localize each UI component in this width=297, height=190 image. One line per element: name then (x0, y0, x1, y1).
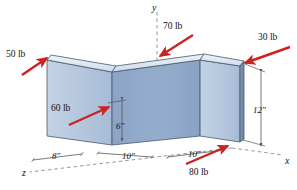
force-30lb-label: 30 lb (258, 33, 277, 43)
force-70lb-arrow (160, 35, 193, 56)
force-60lb-label: 60 lb (51, 104, 70, 114)
dim-12in-label: 12" (253, 106, 266, 115)
dim-12in-leader-bottom (243, 140, 265, 146)
dim-6in-label: 6" (116, 122, 124, 131)
bent-plate-solid (47, 54, 244, 145)
dim-10in-left-label: 10" (122, 152, 135, 161)
axis-z-label: z (22, 168, 26, 178)
dim-8in-label: 8" (52, 152, 60, 161)
force-50lb-arrow (22, 58, 47, 75)
plate-panel-right-end (240, 61, 244, 142)
force-70lb-label: 70 lb (163, 22, 182, 32)
dim-12in-leader-top (245, 64, 265, 72)
axis-x-label: x (285, 156, 289, 166)
plate-panel-middle-face (112, 60, 200, 145)
statics-diagram (0, 0, 297, 190)
axis-x-line (232, 148, 283, 155)
figure-canvas: 50 lb 70 lb 30 lb 60 lb 80 lb 8" 10" 10"… (0, 0, 297, 190)
axis-y-label: y (152, 3, 156, 13)
force-30lb-arrow (245, 47, 290, 63)
force-50lb-label: 50 lb (6, 50, 25, 60)
plate-panel-right-face (200, 60, 240, 142)
force-80lb-label: 80 lb (189, 168, 208, 178)
dim-10in-right-label: 10" (188, 150, 201, 159)
